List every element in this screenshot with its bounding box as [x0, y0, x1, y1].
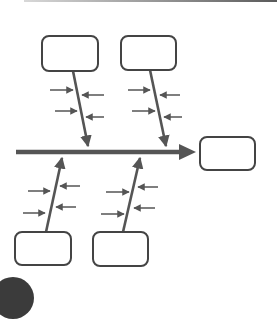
category-box[interactable]: [15, 232, 71, 265]
bone-line: [123, 158, 140, 232]
category-bottom-right: [93, 158, 158, 266]
category-top-left: [42, 36, 104, 146]
category-box[interactable]: [93, 232, 148, 266]
category-box[interactable]: [42, 36, 98, 71]
category-box[interactable]: [121, 36, 176, 70]
effect-box[interactable]: [200, 137, 255, 170]
effect-box-rect[interactable]: [200, 137, 255, 170]
category-bottom-left: [15, 158, 80, 265]
category-top-right: [121, 36, 182, 146]
spine-arrowhead-icon: [179, 144, 196, 160]
bone-line: [73, 71, 88, 146]
bone-line: [46, 158, 62, 232]
bone-line: [150, 70, 166, 146]
spine: [16, 144, 196, 160]
corner-circle-decoration: [0, 277, 34, 319]
